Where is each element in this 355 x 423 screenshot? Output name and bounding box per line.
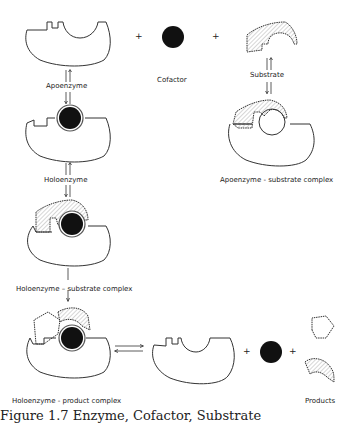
holoenzyme-shape (26, 105, 110, 162)
plus-sign: + (212, 31, 220, 41)
plus-sign: + (243, 346, 251, 356)
holoenzyme-product-complex-shape (27, 308, 110, 378)
substrate-shape (247, 22, 297, 52)
substrate-label: Substrate (250, 71, 284, 79)
cofactor-label: Cofactor (157, 76, 187, 84)
cofactor-shape (162, 26, 184, 48)
released-cofactor-shape (260, 341, 282, 363)
apoenzyme-shape (26, 22, 110, 66)
holoenzyme-substrate-complex-shape (28, 200, 111, 266)
holoenzyme-product-complex-label: Holoenzyme - product complex (12, 397, 121, 405)
apoenzyme-label: Apoenzyme (46, 82, 87, 90)
product-shapes (305, 316, 334, 382)
apoenzyme-substrate-complex-shape (229, 100, 315, 166)
plus-sign: + (289, 346, 297, 356)
products-label: Products (305, 397, 335, 405)
holoenzyme-label: Holoenzyme (44, 176, 87, 184)
figure-caption-partial: Figure 1.7 Enzyme, Cofactor, Substrate (0, 408, 261, 423)
apoenzyme-substrate-complex-label: Apoenzyme - substrate complex (220, 176, 333, 184)
released-apoenzyme-shape (153, 338, 235, 384)
holoenzyme-substrate-complex-label: Holoenzyme – substrate complex (16, 285, 132, 293)
equilibrium-arrows-horizontal (115, 345, 144, 353)
plus-sign: + (135, 31, 143, 41)
